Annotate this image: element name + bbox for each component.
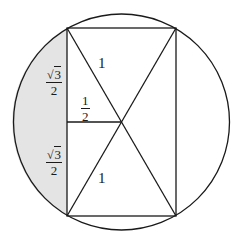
- one-half-numerator: 1: [81, 94, 90, 108]
- label-upper-root3-over-2: √3 2: [46, 68, 62, 97]
- label-lower-root3-over-2: √3 2: [46, 148, 62, 177]
- upper-root3-denominator: 2: [51, 83, 58, 97]
- lower-root3-denominator: 2: [51, 163, 58, 177]
- lower-root3-numerator: √3: [46, 148, 62, 162]
- label-upper-diagonal-one: 1: [98, 56, 106, 71]
- diagram-canvas: [0, 0, 239, 244]
- one-half-denominator: 2: [82, 109, 89, 123]
- label-one-half: 1 2: [81, 94, 90, 123]
- square-root-symbol: √3: [47, 148, 61, 161]
- upper-root3-numerator: √3: [46, 68, 62, 82]
- label-lower-diagonal-one: 1: [98, 171, 106, 186]
- square-root-symbol: √3: [47, 68, 61, 81]
- shaded-circular-segment: [12, 28, 67, 216]
